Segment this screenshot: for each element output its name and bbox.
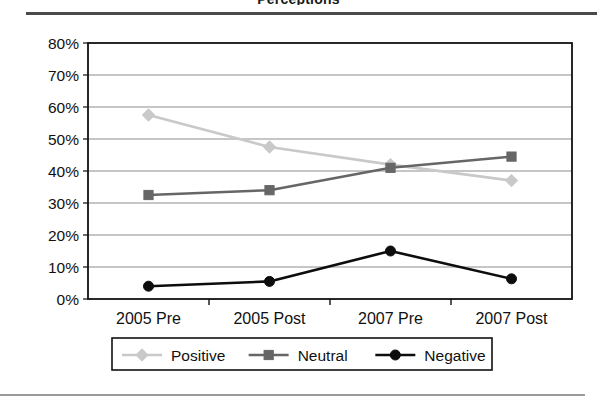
data-point-marker xyxy=(507,152,516,161)
x-axis-category-label: 2005 Pre xyxy=(116,310,181,327)
legend-label: Negative xyxy=(424,347,485,364)
x-axis-category-label: 2005 Post xyxy=(233,310,306,327)
legend-label: Positive xyxy=(171,347,225,364)
x-axis-category-label: 2007 Post xyxy=(475,310,548,327)
y-axis-tick-label: 60% xyxy=(48,99,79,116)
line-chart: 0%10%20%30%40%50%60%70%80%2005 Pre2005 P… xyxy=(0,0,597,392)
data-point-marker xyxy=(265,186,274,195)
y-axis-tick-label: 30% xyxy=(48,195,79,212)
y-axis-tick-label: 50% xyxy=(48,131,79,148)
data-point-marker xyxy=(386,163,395,172)
data-point-marker xyxy=(505,174,517,186)
legend-marker-swatch xyxy=(390,350,400,360)
y-axis-tick-label: 40% xyxy=(48,163,79,180)
figure-container: Perceptions 0%10%20%30%40%50%60%70%80%20… xyxy=(0,0,597,410)
series-positive xyxy=(142,109,517,187)
data-point-marker xyxy=(265,276,275,286)
legend-marker-swatch xyxy=(264,350,273,359)
x-axis-category-label: 2007 Pre xyxy=(358,310,423,327)
series-line xyxy=(149,251,512,286)
bottom-divider-rule xyxy=(0,394,585,396)
y-axis-tick-label: 80% xyxy=(48,35,79,52)
data-point-marker xyxy=(144,281,154,291)
y-axis-tick-label: 70% xyxy=(48,67,79,84)
data-point-marker xyxy=(142,109,154,121)
y-axis-tick-label: 0% xyxy=(57,291,80,308)
data-point-marker xyxy=(263,141,275,153)
series-neutral xyxy=(144,152,516,200)
legend-label: Neutral xyxy=(298,347,348,364)
series-line xyxy=(149,157,512,195)
series-negative xyxy=(144,246,517,291)
data-point-marker xyxy=(507,274,517,284)
y-axis-tick-label: 20% xyxy=(48,227,79,244)
y-axis-tick-label: 10% xyxy=(48,259,79,276)
data-point-marker xyxy=(386,246,396,256)
data-point-marker xyxy=(144,190,153,199)
